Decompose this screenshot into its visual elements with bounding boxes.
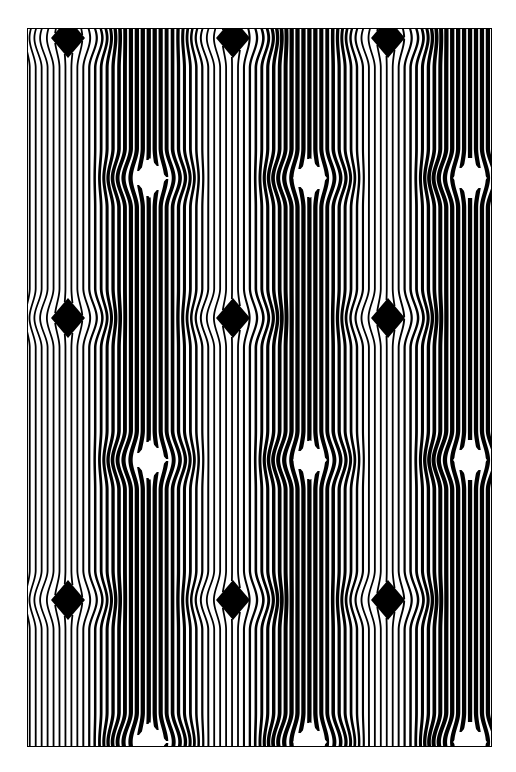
op-art-illustration: Vertical Line Op-Art Illusion black-and-… [0, 0, 516, 772]
op-art-canvas [0, 0, 516, 772]
